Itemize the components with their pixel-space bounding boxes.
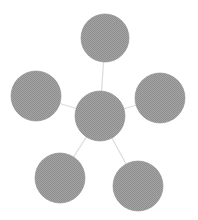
node-left <box>11 71 61 121</box>
node-top <box>81 14 129 62</box>
node-right <box>135 73 185 123</box>
node-bottom-right <box>113 161 163 211</box>
node-center <box>75 91 125 141</box>
nodes <box>11 14 185 211</box>
hub-spoke-diagram <box>0 0 198 220</box>
node-bottom-left <box>35 153 85 203</box>
